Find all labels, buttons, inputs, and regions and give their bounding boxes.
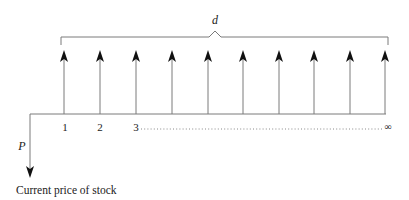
up-arrow-icon: [381, 50, 389, 114]
price-label: P: [17, 139, 26, 153]
infinity-label: ∞: [384, 121, 391, 132]
dividend-arrows: [60, 50, 389, 114]
up-arrow-icon: [204, 50, 212, 114]
up-arrow-icon: [239, 50, 247, 114]
period-label-3: 3: [133, 121, 139, 133]
up-arrow-icon: [168, 50, 176, 114]
dividend-label: d: [212, 13, 219, 27]
dividend-brace: [61, 31, 388, 45]
up-arrow-icon: [310, 50, 318, 114]
down-arrow-icon: [26, 114, 34, 178]
cash-flow-diagram: d P 1 2 3 ∞ Current price of stock: [0, 0, 409, 200]
up-arrow-icon: [60, 50, 68, 114]
up-arrow-icon: [346, 50, 354, 114]
caption: Current price of stock: [16, 184, 117, 197]
up-arrow-icon: [96, 50, 104, 114]
up-arrow-icon: [132, 50, 140, 114]
period-label-1: 1: [62, 121, 68, 133]
up-arrow-icon: [275, 50, 283, 114]
period-label-2: 2: [97, 121, 103, 133]
